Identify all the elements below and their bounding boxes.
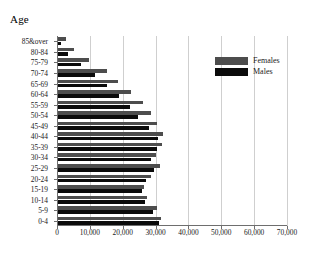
- legend-label: Females: [253, 56, 280, 65]
- bar-row: [57, 184, 287, 195]
- x-axis-tick-label: 40,000: [178, 228, 198, 237]
- x-axis-tick-label: 50,000: [211, 228, 231, 237]
- y-axis-tick-label: 85&over: [22, 37, 48, 46]
- y-axis-tick-label: 75-79: [31, 58, 48, 67]
- x-axis-labels: 010,00020,00030,00040,00050,00060,00070,…: [0, 228, 318, 244]
- bar-row: [57, 131, 287, 142]
- x-axis-line: [57, 225, 287, 226]
- bar-females: [57, 80, 118, 84]
- x-axis-tick: [188, 226, 189, 229]
- y-axis-tick-label: 65-69: [31, 79, 48, 88]
- chart-legend: FemalesMales: [215, 55, 311, 77]
- population-pyramid-chart: Age 85&over80-8475-7970-7465-6960-6455-5…: [0, 0, 318, 260]
- bar-row: [57, 142, 287, 153]
- x-axis-tick: [156, 226, 157, 229]
- y-axis-labels: 85&over80-8475-7970-7465-6960-6455-5950-…: [0, 36, 53, 226]
- bar-males: [57, 105, 130, 109]
- y-axis-tick-label: 25-29: [31, 163, 48, 172]
- bar-females: [57, 132, 163, 136]
- bar-females: [57, 101, 143, 105]
- bar-females: [57, 196, 147, 200]
- legend-swatch-female: [215, 57, 248, 65]
- x-axis-tick: [221, 226, 222, 229]
- bar-females: [57, 185, 144, 189]
- bar-females: [57, 122, 157, 126]
- legend-item: Males: [215, 66, 311, 77]
- bar-females: [57, 175, 151, 179]
- bar-males: [57, 168, 154, 172]
- x-axis-tick: [287, 226, 288, 229]
- y-axis-tick-label: 45-49: [31, 121, 48, 130]
- y-axis-line: [57, 36, 58, 226]
- bar-females: [57, 153, 156, 157]
- x-axis-tick: [57, 226, 58, 229]
- x-axis-tick-label: 70,000: [277, 228, 297, 237]
- x-axis-tick-label: 0: [55, 228, 59, 237]
- bar-row: [57, 36, 287, 47]
- x-axis-tick: [123, 226, 124, 229]
- bar-males: [57, 84, 107, 88]
- y-axis-tick-label: 10-14: [31, 195, 48, 204]
- y-axis-tick-label: 55-59: [31, 100, 48, 109]
- bar-males: [57, 158, 151, 162]
- y-axis-tick-label: 60-64: [31, 90, 48, 99]
- bar-females: [57, 111, 151, 115]
- x-axis-tick-label: 30,000: [145, 228, 165, 237]
- bar-females: [57, 206, 157, 210]
- bar-males: [57, 126, 149, 130]
- x-axis-tick-label: 10,000: [80, 228, 100, 237]
- y-axis-tick-label: 5-9: [38, 206, 48, 215]
- y-axis-tick-label: 80-84: [31, 47, 48, 56]
- x-axis-tick-label: 60,000: [244, 228, 264, 237]
- y-axis-tick-label: 15-19: [31, 185, 48, 194]
- legend-item: Females: [215, 55, 311, 66]
- x-axis-tick-label: 20,000: [113, 228, 133, 237]
- bar-females: [57, 48, 74, 52]
- bar-row: [57, 152, 287, 163]
- y-axis-tick-label: 70-74: [31, 68, 48, 77]
- bar-males: [57, 73, 95, 77]
- bar-row: [57, 205, 287, 216]
- y-axis-tick-label: 40-44: [31, 132, 48, 141]
- y-axis-tick-label: 30-34: [31, 153, 48, 162]
- bar-row: [57, 173, 287, 184]
- y-axis-tick-label: 50-54: [31, 111, 48, 120]
- bar-females: [57, 69, 107, 73]
- bar-females: [57, 164, 160, 168]
- bar-females: [57, 37, 66, 41]
- bar-males: [57, 52, 68, 56]
- bar-row: [57, 99, 287, 110]
- bar-males: [57, 63, 81, 67]
- bar-males: [57, 137, 158, 141]
- bar-row: [57, 194, 287, 205]
- bar-males: [57, 147, 157, 151]
- bar-females: [57, 90, 131, 94]
- bar-females: [57, 217, 161, 221]
- legend-label: Males: [253, 67, 273, 76]
- bar-males: [57, 115, 138, 119]
- bar-females: [57, 143, 162, 147]
- y-axis-tick-label: 35-39: [31, 142, 48, 151]
- bar-males: [57, 94, 119, 98]
- bar-row: [57, 120, 287, 131]
- bar-row: [57, 78, 287, 89]
- bar-females: [57, 58, 89, 62]
- legend-swatch-male: [215, 68, 248, 76]
- bar-males: [57, 189, 142, 193]
- y-axis-tick-label: 20-24: [31, 174, 48, 183]
- bar-males: [57, 210, 153, 214]
- chart-title: Age: [10, 13, 29, 25]
- x-axis-tick: [254, 226, 255, 229]
- y-axis-tick-label: 0-4: [38, 216, 48, 225]
- bar-row: [57, 89, 287, 100]
- bar-males: [57, 179, 146, 183]
- bar-males: [57, 200, 145, 204]
- x-axis-tick: [90, 226, 91, 229]
- bar-row: [57, 163, 287, 174]
- bar-row: [57, 110, 287, 121]
